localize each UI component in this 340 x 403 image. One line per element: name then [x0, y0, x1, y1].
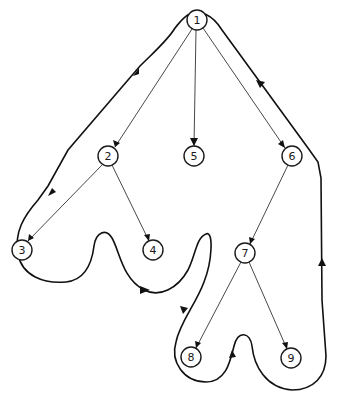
edge-7-9	[249, 262, 287, 349]
node-4: 4	[143, 240, 163, 260]
contour-arrow-6	[318, 258, 326, 266]
svg-text:2: 2	[105, 150, 112, 163]
traversal-contour	[17, 13, 326, 390]
contour-arrow-4	[180, 306, 188, 314]
contour-arrow-5	[229, 350, 236, 358]
contour-arrow-3	[140, 286, 150, 294]
tree-edges	[28, 28, 288, 349]
edge-6-7	[250, 165, 288, 244]
node-8: 8	[181, 347, 201, 367]
edge-1-6	[203, 28, 285, 148]
svg-text:5: 5	[191, 150, 198, 163]
svg-text:8: 8	[188, 351, 195, 364]
node-1: 1	[187, 10, 207, 30]
svg-text:6: 6	[289, 150, 296, 163]
node-9: 9	[281, 348, 301, 368]
edge-2-3	[28, 165, 102, 241]
svg-text:1: 1	[194, 14, 201, 27]
node-6: 6	[282, 146, 302, 166]
contour-arrow-2	[48, 188, 56, 196]
node-2: 2	[98, 146, 118, 166]
svg-text:4: 4	[150, 244, 157, 257]
svg-text:7: 7	[242, 247, 249, 260]
node-3: 3	[12, 240, 32, 260]
node-5: 5	[184, 146, 204, 166]
edge-7-8	[196, 262, 241, 348]
edge-1-2	[115, 29, 192, 147]
node-7: 7	[235, 243, 255, 263]
svg-text:3: 3	[19, 244, 26, 257]
svg-text:9: 9	[288, 352, 295, 365]
edge-2-4	[112, 165, 149, 241]
edge-1-5	[194, 30, 196, 146]
tree-traversal-diagram: 1 2 3 4 5 6 7 8 9	[0, 0, 340, 403]
